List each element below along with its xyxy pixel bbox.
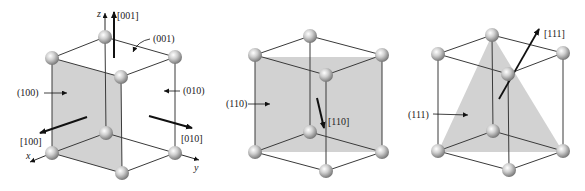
atom <box>375 145 389 159</box>
atom <box>556 46 570 60</box>
atom <box>431 144 445 158</box>
cube-2: [110] (110) <box>226 29 389 178</box>
y-axis-label: y <box>193 162 199 173</box>
z-axis-label: z <box>96 8 101 19</box>
cube-3: [111] (111) <box>408 28 570 177</box>
atom <box>375 48 389 62</box>
atom <box>248 145 262 159</box>
direction-110-label: [110] <box>328 116 349 127</box>
direction-010-arrow <box>149 116 192 128</box>
atom <box>168 50 182 64</box>
plane-111-label: (111) <box>408 109 429 121</box>
direction-010-label: [010] <box>181 133 203 144</box>
direction-111-label: [111] <box>544 28 565 39</box>
atom <box>99 126 113 140</box>
atom <box>114 70 128 84</box>
plane-100-label: (100) <box>17 87 39 99</box>
atom <box>98 30 112 44</box>
atom <box>431 47 445 61</box>
atom <box>168 146 182 160</box>
atom <box>303 125 317 139</box>
plane-010-label: (010) <box>183 85 205 97</box>
plane-001-label: (001) <box>153 33 175 45</box>
x-axis-label: x <box>25 150 31 161</box>
atom <box>502 163 516 177</box>
atom <box>45 51 59 65</box>
atom <box>485 28 499 42</box>
atom <box>501 67 515 81</box>
atom <box>115 166 129 180</box>
atom <box>486 124 500 138</box>
direction-001-label: [001] <box>117 10 139 21</box>
atom <box>45 146 59 160</box>
atom <box>556 144 570 158</box>
plane-110-label: (110) <box>226 98 247 110</box>
atom <box>303 29 317 43</box>
atom <box>319 164 333 178</box>
miller-indices-diagram: z x y [001] [100] [010] (100) (010) (001… <box>0 0 585 191</box>
atom <box>319 68 333 82</box>
cube-1: z x y [001] [100] [010] (100) (010) (001… <box>17 8 205 180</box>
direction-100-label: [100] <box>20 136 42 147</box>
atom <box>248 48 262 62</box>
plane-111 <box>438 35 563 152</box>
